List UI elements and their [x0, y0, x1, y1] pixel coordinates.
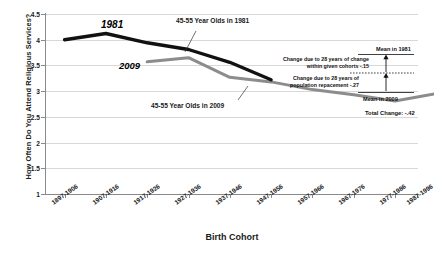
series-label-1981: 1981 [101, 19, 123, 30]
arrow-replacement-head [383, 73, 388, 78]
total-change-label: Total Change: -.42 [365, 110, 415, 116]
callout-1981: 45-55 Year Olds in 1981 [176, 17, 249, 24]
callout-2009: 45-55 Year Olds in 2009 [151, 102, 224, 109]
series-line-1981 [65, 34, 272, 80]
x-axis-title: Birth Cohort [46, 232, 418, 242]
leader-line-2009 [238, 86, 248, 100]
mean-2009-label: Mean in 2009 [363, 96, 398, 102]
series-label-2009: 2009 [119, 60, 140, 71]
annotation-within-cohort-line1: Change due to 28 years of change [283, 56, 369, 63]
arrow-cohort-head [383, 55, 388, 60]
mean-1981-label: Mean in 1981 [376, 46, 411, 52]
annotation-population-replacement-line1: Change due to 28 years of [290, 75, 359, 82]
annotation-within-cohort-line2: within given cohorts -.15 [283, 63, 369, 70]
annotation-population-replacement-line2: population repacement -.27 [290, 82, 359, 89]
annotation-population-replacement: Change due to 28 years of population rep… [290, 75, 359, 89]
annotation-within-cohort: Change due to 28 years of change within … [283, 56, 369, 70]
